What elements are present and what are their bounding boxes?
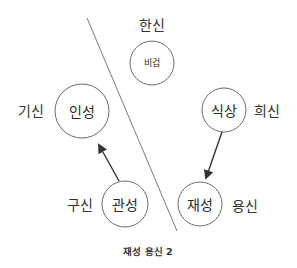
figure-caption: 재성 용신 2: [123, 247, 172, 257]
role-label-gisin: 기신: [18, 104, 44, 118]
diagram-canvas: [0, 0, 297, 268]
role-label-yongsin: 용신: [232, 199, 258, 213]
node-label-bigeop: 비겁: [144, 59, 160, 68]
role-label-huisin: 희신: [254, 104, 280, 118]
arrow-siksang-to-jaeseong: [206, 132, 222, 178]
node-label-jaeseong: 재성: [187, 198, 213, 212]
node-label-inseong: 인성: [69, 105, 95, 119]
role-label-gusin: 구신: [67, 198, 93, 212]
node-label-gwanseong: 관성: [112, 198, 138, 212]
role-label-hansin: 한신: [139, 18, 165, 32]
arrow-gwanseong-to-inseong: [99, 145, 119, 181]
node-label-siksang: 식상: [211, 104, 237, 118]
